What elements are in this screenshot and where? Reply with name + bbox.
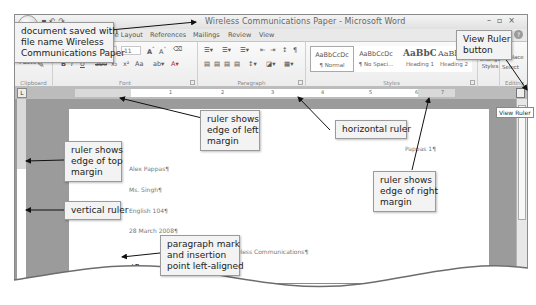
show-hide-icon[interactable]: ¶: [293, 46, 297, 54]
callout-text: vertical ruler: [71, 205, 114, 216]
callout-text: horizontal ruler: [342, 124, 400, 135]
editing-group-label: Editing: [500, 80, 528, 86]
window-title: Wireless Communications Paper - Microsof…: [205, 17, 406, 26]
ruler-number: 4: [321, 89, 324, 95]
style-sample: AaBbCcDc: [354, 50, 398, 58]
view-ruler-button[interactable]: [516, 88, 525, 98]
superscript-button[interactable]: x²: [123, 60, 129, 68]
ruler-number: 2: [221, 89, 224, 95]
callout-left-margin: ruler shows edge of left margin: [200, 110, 260, 151]
doc-line-date: 28 March 2008¶: [129, 227, 178, 234]
callout-right-margin: ruler shows edge of right margin: [373, 171, 436, 212]
ruler-ticks: 1 2 3 4 5 6 7: [75, 89, 455, 97]
callout-text: margin: [207, 136, 253, 147]
clipboard-group-label: Clipboard: [15, 80, 52, 86]
style-no-spacing[interactable]: AaBbCcDc ¶ No Spaci...: [354, 46, 398, 72]
screenshot-stage: ▪ ↶ ↷ Wireless Communications Paper - Mi…: [0, 0, 536, 305]
increase-indent-icon[interactable]: ⇥: [270, 46, 275, 54]
callout-text: View Ruler: [463, 34, 505, 45]
bullets-icon[interactable]: ☰▾: [204, 46, 213, 54]
callout-horizontal-ruler: horizontal ruler: [335, 120, 407, 139]
callout-text: margin: [380, 197, 429, 208]
callout-text: point left-aligned: [167, 261, 233, 272]
justify-icon[interactable]: ▤: [234, 60, 240, 68]
styles-group: AaBbCcDc ¶ Normal AaBbCcDc ¶ No Spaci...…: [306, 42, 478, 87]
decrease-indent-icon[interactable]: ⇤: [260, 46, 265, 54]
callout-paragraph-mark: paragraph mark and insertion point left-…: [160, 235, 240, 276]
tab-references[interactable]: References: [150, 31, 186, 39]
torn-page-edge: [0, 252, 536, 305]
callout-document-saved: document saved with file name Wireless C…: [14, 22, 114, 63]
callout-text: document saved with: [21, 26, 107, 37]
callout-text: file name Wireless: [21, 37, 107, 48]
styles-dialog-launcher[interactable]: [470, 80, 475, 85]
clear-formatting-icon[interactable]: ⌫: [173, 45, 182, 53]
header-page-number: Pappas 1¶: [405, 145, 436, 152]
doc-line-course: English 104¶: [129, 207, 168, 214]
callout-text: margin: [71, 167, 115, 178]
align-left-icon[interactable]: ▤: [204, 60, 210, 68]
shading-icon[interactable]: ◪▾: [266, 60, 275, 68]
tab-view[interactable]: View: [259, 31, 274, 39]
change-case-button[interactable]: Aa: [135, 60, 143, 68]
callout-text: edge of left: [207, 125, 253, 136]
restore-button[interactable]: ▫: [497, 16, 508, 25]
ruler-number: 5: [369, 89, 372, 95]
style-name: Heading 2: [436, 61, 472, 67]
callout-text: edge of right: [380, 186, 429, 197]
help-icon[interactable]: ?: [514, 30, 523, 39]
style-name: ¶ No Spaci...: [354, 61, 398, 67]
callout-text: and insertion: [167, 250, 233, 261]
horizontal-ruler[interactable]: 1 2 3 4 5 6 7: [75, 89, 455, 97]
borders-icon[interactable]: ▦▾: [284, 60, 293, 68]
ruler-number: 1: [169, 89, 172, 95]
ruler-number: 6: [415, 89, 418, 95]
tab-review[interactable]: Review: [228, 31, 251, 39]
paragraph-group: ☰▾ ☰▾ ☰▾ ⇤ ⇥ ↕ ¶ ▤ ▤ ▤ ▤ ↕▾ ◪▾ ▦▾ Paragr…: [198, 42, 306, 87]
ruler-number: 7: [441, 89, 444, 95]
font-group-label: Font: [53, 80, 197, 86]
style-name: ¶ Normal: [311, 62, 353, 68]
doc-line-instructor: Ms. Singh¶: [129, 186, 162, 193]
select-button[interactable]: Select: [502, 64, 519, 70]
paragraph-group-label: Paragraph: [198, 80, 305, 86]
callout-text: ruler shows: [380, 175, 429, 186]
styles-group-label: Styles: [306, 80, 477, 86]
scrollbar-thumb[interactable]: [518, 105, 526, 220]
sort-icon[interactable]: ↕: [282, 46, 287, 54]
callout-top-margin: ruler shows edge of top margin: [64, 141, 122, 182]
callout-text: edge of top: [71, 156, 115, 167]
tab-mailings[interactable]: Mailings: [193, 31, 220, 39]
center-icon[interactable]: ▤: [214, 60, 220, 68]
tab-selector-button[interactable]: L: [17, 88, 27, 98]
paragraph-dialog-launcher[interactable]: [298, 80, 303, 85]
ruler-number: 3: [271, 89, 274, 95]
multilevel-list-icon[interactable]: ☰▾: [240, 46, 249, 54]
align-right-icon[interactable]: ▤: [224, 60, 230, 68]
ruler-row: L 1 2 3 4 5 6 7: [15, 87, 527, 99]
callout-text: button: [463, 45, 505, 56]
window-controls: –▫×: [487, 16, 521, 25]
style-sample: AaBbCcDc: [311, 51, 353, 59]
doc-line-name: Alex Pappas¶: [129, 165, 169, 172]
grow-font-icon[interactable]: A˄: [147, 46, 155, 56]
callout-text: ruler shows: [207, 114, 253, 125]
line-spacing-icon[interactable]: ↕▾: [248, 60, 257, 68]
minimize-button[interactable]: –: [487, 16, 497, 25]
shrink-font-icon[interactable]: A˅: [159, 46, 166, 56]
close-button[interactable]: ×: [508, 16, 521, 25]
callout-text: ruler shows: [71, 145, 115, 156]
callout-text: Communications Paper: [21, 48, 107, 59]
callout-view-ruler-button: View Ruler button: [456, 30, 512, 60]
font-dialog-launcher[interactable]: [190, 80, 195, 85]
highlight-icon[interactable]: ab▾: [153, 60, 164, 68]
numbering-icon[interactable]: ☰▾: [222, 46, 231, 54]
callout-vertical-ruler: vertical ruler: [64, 201, 121, 220]
font-color-icon[interactable]: A▾: [171, 60, 179, 68]
style-normal[interactable]: AaBbCcDc ¶ Normal: [310, 46, 354, 72]
callout-text: paragraph mark: [167, 239, 233, 250]
view-ruler-tooltip: View Ruler: [496, 107, 534, 118]
